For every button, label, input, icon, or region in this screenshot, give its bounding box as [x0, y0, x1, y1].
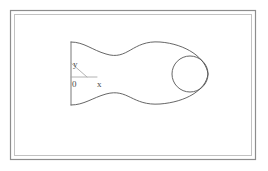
body-outline-path	[71, 42, 208, 105]
frame-outer-border	[11, 11, 256, 160]
line-drawing-figure: y 0 x	[0, 0, 268, 171]
x-axis-label: x	[97, 79, 102, 89]
origin-label: 0	[72, 79, 77, 89]
figure-canvas: y 0 x	[0, 0, 268, 171]
nose-circle	[172, 56, 208, 92]
y-axis-label: y	[73, 59, 78, 69]
frame-inner-border	[15, 15, 252, 156]
